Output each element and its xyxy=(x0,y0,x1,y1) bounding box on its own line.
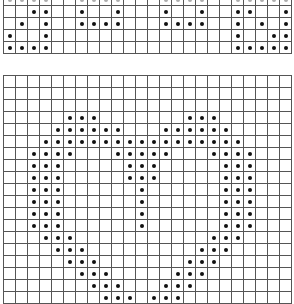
grid-cell-filled[interactable] xyxy=(40,196,52,208)
grid-cell-empty[interactable] xyxy=(28,88,40,100)
grid-cell-empty[interactable] xyxy=(208,280,220,292)
grid-cell-filled[interactable] xyxy=(100,136,112,148)
grid-cell-filled[interactable] xyxy=(196,244,208,256)
grid-cell-empty[interactable] xyxy=(244,256,256,268)
grid-cell-empty[interactable] xyxy=(4,172,16,184)
grid-cell-empty[interactable] xyxy=(4,220,16,232)
grid-cell-empty[interactable] xyxy=(208,292,220,304)
grid-cell-empty[interactable] xyxy=(64,220,76,232)
grid-cell-empty[interactable] xyxy=(28,100,40,112)
grid-cell-empty[interactable] xyxy=(232,268,244,280)
grid-cell-empty[interactable] xyxy=(160,232,172,244)
grid-cell-filled[interactable] xyxy=(52,160,64,172)
grid-cell-filled[interactable] xyxy=(280,42,292,54)
grid-cell-empty[interactable] xyxy=(196,172,208,184)
grid-cell-empty[interactable] xyxy=(28,18,40,30)
grid-cell-empty[interactable] xyxy=(160,88,172,100)
grid-cell-filled[interactable] xyxy=(88,112,100,124)
grid-cell-empty[interactable] xyxy=(76,88,88,100)
grid-cell-empty[interactable] xyxy=(172,100,184,112)
grid-cell-empty[interactable] xyxy=(268,18,280,30)
grid-cell-empty[interactable] xyxy=(220,292,232,304)
grid-cell-filled[interactable] xyxy=(136,172,148,184)
grid-cell-empty[interactable] xyxy=(100,220,112,232)
grid-cell-empty[interactable] xyxy=(256,196,268,208)
grid-cell-empty[interactable] xyxy=(268,220,280,232)
grid-cell-filled[interactable] xyxy=(124,292,136,304)
grid-cell-empty[interactable] xyxy=(40,256,52,268)
grid-cell-empty[interactable] xyxy=(64,18,76,30)
grid-cell-filled[interactable] xyxy=(40,18,52,30)
grid-cell-empty[interactable] xyxy=(124,220,136,232)
grid-cell-filled[interactable] xyxy=(172,18,184,30)
grid-cell-empty[interactable] xyxy=(184,148,196,160)
grid-cell-filled[interactable] xyxy=(244,220,256,232)
grid-cell-empty[interactable] xyxy=(196,292,208,304)
grid-cell-empty[interactable] xyxy=(28,232,40,244)
grid-cell-empty[interactable] xyxy=(4,160,16,172)
grid-cell-filled[interactable] xyxy=(100,280,112,292)
grid-cell-empty[interactable] xyxy=(64,6,76,18)
grid-cell-empty[interactable] xyxy=(256,30,268,42)
grid-cell-filled[interactable] xyxy=(40,172,52,184)
grid-cell-empty[interactable] xyxy=(4,256,16,268)
grid-cell-empty[interactable] xyxy=(16,160,28,172)
grid-cell-empty[interactable] xyxy=(232,124,244,136)
grid-cell-empty[interactable] xyxy=(124,30,136,42)
grid-cell-empty[interactable] xyxy=(268,184,280,196)
grid-cell-empty[interactable] xyxy=(172,184,184,196)
grid-cell-filled[interactable] xyxy=(220,196,232,208)
grid-cell-empty[interactable] xyxy=(88,184,100,196)
grid-cell-empty[interactable] xyxy=(16,220,28,232)
grid-cell-filled[interactable] xyxy=(184,124,196,136)
grid-cell-empty[interactable] xyxy=(112,172,124,184)
grid-cell-empty[interactable] xyxy=(52,18,64,30)
grid-cell-empty[interactable] xyxy=(88,208,100,220)
grid-cell-filled[interactable] xyxy=(220,244,232,256)
grid-cell-empty[interactable] xyxy=(160,220,172,232)
grid-cell-empty[interactable] xyxy=(148,124,160,136)
grid-cell-empty[interactable] xyxy=(40,124,52,136)
grid-cell-filled[interactable] xyxy=(136,148,148,160)
grid-cell-filled[interactable] xyxy=(244,196,256,208)
grid-cell-empty[interactable] xyxy=(4,88,16,100)
grid-cell-filled[interactable] xyxy=(4,30,16,42)
grid-cell-empty[interactable] xyxy=(40,112,52,124)
grid-cell-empty[interactable] xyxy=(124,76,136,88)
grid-cell-empty[interactable] xyxy=(112,112,124,124)
grid-cell-empty[interactable] xyxy=(16,208,28,220)
grid-cell-empty[interactable] xyxy=(4,280,16,292)
grid-cell-filled[interactable] xyxy=(76,244,88,256)
grid-cell-filled[interactable] xyxy=(244,172,256,184)
grid-cell-filled[interactable] xyxy=(208,256,220,268)
grid-cell-empty[interactable] xyxy=(172,30,184,42)
grid-cell-filled[interactable] xyxy=(232,18,244,30)
grid-cell-empty[interactable] xyxy=(64,88,76,100)
grid-cell-empty[interactable] xyxy=(172,76,184,88)
grid-cell-empty[interactable] xyxy=(244,30,256,42)
grid-cell-filled[interactable] xyxy=(112,292,124,304)
grid-cell-filled[interactable] xyxy=(124,172,136,184)
grid-cell-filled[interactable] xyxy=(52,136,64,148)
grid-cell-empty[interactable] xyxy=(64,160,76,172)
grid-cell-empty[interactable] xyxy=(280,268,292,280)
grid-cell-empty[interactable] xyxy=(124,124,136,136)
grid-cell-empty[interactable] xyxy=(88,160,100,172)
grid-cell-empty[interactable] xyxy=(40,100,52,112)
grid-cell-empty[interactable] xyxy=(88,30,100,42)
grid-cell-empty[interactable] xyxy=(4,124,16,136)
grid-cell-filled[interactable] xyxy=(172,292,184,304)
grid-cell-empty[interactable] xyxy=(76,76,88,88)
grid-cell-empty[interactable] xyxy=(160,42,172,54)
grid-cell-empty[interactable] xyxy=(196,160,208,172)
grid-cell-empty[interactable] xyxy=(148,184,160,196)
grid-cell-empty[interactable] xyxy=(280,256,292,268)
grid-cell-filled[interactable] xyxy=(16,42,28,54)
grid-cell-empty[interactable] xyxy=(76,220,88,232)
grid-cell-empty[interactable] xyxy=(172,208,184,220)
grid-cell-filled[interactable] xyxy=(196,18,208,30)
grid-cell-empty[interactable] xyxy=(28,30,40,42)
grid-cell-filled[interactable] xyxy=(112,124,124,136)
grid-cell-filled[interactable] xyxy=(88,268,100,280)
grid-cell-empty[interactable] xyxy=(76,232,88,244)
